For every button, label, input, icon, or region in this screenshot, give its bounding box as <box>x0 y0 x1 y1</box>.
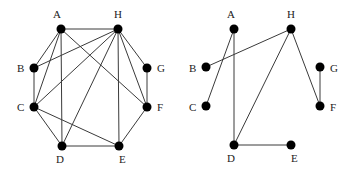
node-F <box>316 102 325 111</box>
node-label-A: A <box>53 8 61 20</box>
edge-H-B <box>206 29 291 67</box>
edge-H-E <box>118 29 119 146</box>
node-label-G: G <box>157 62 165 74</box>
node-A <box>230 25 239 34</box>
node-E <box>115 142 124 151</box>
node-label-H: H <box>114 8 122 20</box>
edge-C-E <box>34 107 119 146</box>
edge-H-D <box>62 29 118 146</box>
node-label-F: F <box>157 101 163 113</box>
node-label-B: B <box>189 62 196 74</box>
node-label-C: C <box>17 101 24 113</box>
edge-H-D <box>234 29 291 145</box>
node-label-E: E <box>119 153 126 165</box>
node-B <box>30 64 39 73</box>
edge-H-C <box>34 29 118 107</box>
node-C <box>30 103 39 112</box>
left-graph: AHBGCFDE <box>17 8 165 165</box>
node-E <box>287 141 296 150</box>
node-label-G: G <box>330 62 338 74</box>
node-C <box>202 102 211 111</box>
node-D <box>58 142 67 151</box>
node-G <box>316 63 325 72</box>
graph-diagram: AHBGCFDE AHBGCFDE <box>0 0 353 171</box>
node-H <box>114 25 123 34</box>
node-label-B: B <box>17 62 24 74</box>
edge-C-D <box>34 107 62 146</box>
right-graph: AHBGCFDE <box>189 8 338 164</box>
node-G <box>143 64 152 73</box>
node-D <box>230 141 239 150</box>
node-label-A: A <box>227 8 235 20</box>
node-label-D: D <box>227 152 235 164</box>
node-B <box>202 63 211 72</box>
node-label-F: F <box>330 101 336 113</box>
edge-H-B <box>34 29 118 68</box>
edge-E-F <box>119 107 147 146</box>
edge-H-G <box>118 29 147 68</box>
node-label-E: E <box>291 152 298 164</box>
node-F <box>143 103 152 112</box>
node-H <box>287 25 296 34</box>
node-label-D: D <box>56 153 64 165</box>
edge-A-D <box>61 29 62 146</box>
node-label-C: C <box>189 101 196 113</box>
node-A <box>57 25 66 34</box>
node-label-H: H <box>287 8 295 20</box>
edge-A-F <box>61 29 147 107</box>
